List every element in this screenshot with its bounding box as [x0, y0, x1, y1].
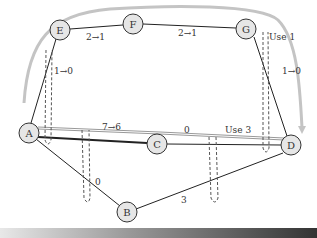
- svg-text:G: G: [242, 24, 250, 35]
- svg-text:E: E: [56, 25, 63, 36]
- arrow-head-icon: [298, 126, 306, 134]
- edge-g-d: [254, 37, 287, 136]
- label-a-c: 7→6: [102, 122, 121, 132]
- annotation-use-1: Use 1: [269, 32, 295, 42]
- edge-e-f: [70, 25, 123, 29]
- node-b: B: [117, 202, 137, 222]
- edge-c-d: [167, 144, 281, 145]
- label-e-f: 2→1: [86, 32, 105, 42]
- label-a-b: 0: [95, 177, 101, 187]
- label-g-d: 1→0: [282, 66, 301, 76]
- annotation-use-3: Use 3: [225, 125, 251, 135]
- svg-text:A: A: [24, 128, 33, 139]
- edge-a-c: [38, 137, 147, 143]
- svg-text:B: B: [123, 207, 130, 218]
- node-f: F: [123, 14, 143, 34]
- label-c-d: 0: [184, 125, 190, 135]
- label-f-g: 2→1: [178, 28, 197, 38]
- flow-network-diagram: 2→1 2→1 1→0 1→0 7→6 0 0 3 Use 1 Use 3 A …: [0, 0, 317, 238]
- edge-a-b: [36, 139, 120, 206]
- node-c: C: [147, 134, 167, 154]
- svg-text:F: F: [130, 19, 137, 30]
- node-g: G: [236, 19, 256, 39]
- label-b-d: 3: [181, 195, 187, 205]
- svg-text:D: D: [287, 140, 295, 151]
- edge-b-d: [136, 153, 283, 209]
- cut-markers: [45, 32, 269, 202]
- node-d: D: [281, 135, 301, 155]
- svg-text:C: C: [153, 139, 161, 150]
- node-a: A: [19, 123, 39, 143]
- node-e: E: [50, 20, 70, 40]
- bottom-rule: [0, 228, 317, 238]
- label-a-e: 1→0: [54, 66, 73, 76]
